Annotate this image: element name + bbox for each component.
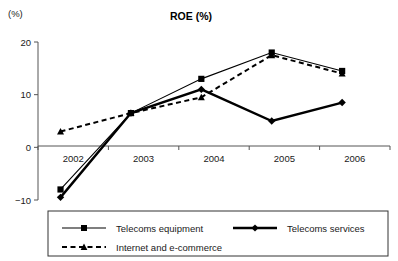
series-telecoms-services [57,86,346,201]
chart-container: (%) ROE (%) 20100−10 2002200320042005200… [0,0,398,261]
y-axis-tick-label: 10 [20,89,31,100]
series-layer [57,49,346,201]
legend-item-label: Internet and e-commerce [116,242,222,253]
data-point-marker [198,86,205,93]
x-axis-tick-label: 2003 [133,153,154,164]
y-axis-tick-label: −10 [15,195,31,206]
legend-item[interactable]: Internet and e-commerce [62,242,222,253]
data-point-marker [268,117,275,124]
series-line [61,55,343,131]
x-axis-tick-label: 2005 [274,153,295,164]
data-point-marker [81,225,87,231]
data-point-marker [198,76,204,82]
chart-title: ROE (%) [170,10,212,22]
x-axis-tick-label: 2004 [203,153,224,164]
chart-legend: Telecoms equipmentTelecoms servicesInter… [48,211,388,256]
data-point-marker [57,186,63,192]
data-point-marker [339,68,345,74]
data-point-marker [269,49,275,55]
y-axis-unit-label: (%) [8,8,23,19]
x-axis-tick-label: 2006 [344,153,365,164]
legend-item-label: Telecoms equipment [116,223,203,234]
legend-item-label: Telecoms services [287,223,365,234]
roe-line-chart: (%) ROE (%) 20100−10 2002200320042005200… [0,0,398,261]
data-point-marker [338,99,345,106]
series-telecoms-equipment [57,49,345,192]
y-axis-tick-label: 20 [20,37,31,48]
legend-item[interactable]: Telecoms equipment [62,223,203,234]
y-axis-tick-label: 0 [26,142,31,153]
y-axis: 20100−10 [15,37,38,206]
x-axis-tick-label: 2002 [63,153,84,164]
legend-item[interactable]: Telecoms services [233,223,365,234]
data-point-marker [251,224,258,231]
